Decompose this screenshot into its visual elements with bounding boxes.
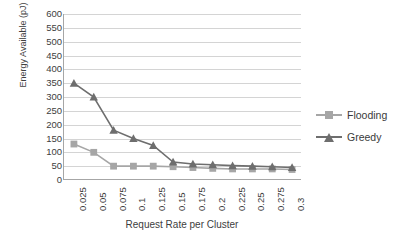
data-point-marker [71, 141, 78, 148]
series-flooding [71, 141, 296, 173]
legend-label: Greedy [347, 131, 381, 143]
legend-key-icon [316, 109, 342, 121]
x-tick-label: 0.1 [136, 198, 147, 211]
x-tick-label: 0.05 [97, 193, 108, 212]
y-tick-label: 400 [46, 65, 62, 75]
x-axis-title: Request Rate per Cluster [63, 219, 301, 230]
data-point-marker [90, 93, 98, 101]
y-tick-label: 0 [57, 175, 62, 185]
y-tick-label: 250 [46, 106, 62, 116]
x-tick-label: 0.3 [295, 198, 306, 211]
y-tick-label: 50 [51, 161, 62, 171]
x-tick-label: 0.25 [255, 193, 266, 212]
legend-item-flooding[interactable]: Flooding [316, 104, 408, 126]
chart-legend: FloodingGreedy [316, 104, 408, 148]
y-tick-label: 550 [46, 23, 62, 33]
data-point-marker [150, 163, 157, 170]
x-tick-label: 0.025 [77, 187, 88, 211]
series-line [74, 83, 292, 167]
data-point-marker [110, 163, 117, 170]
legend-key-icon [316, 131, 342, 143]
data-point-marker [130, 163, 137, 170]
data-point-marker [109, 126, 117, 134]
y-tick-label: 100 [46, 148, 62, 158]
plot-area [63, 14, 301, 180]
y-tick-label: 500 [46, 37, 62, 47]
x-tick-label: 0.15 [176, 193, 187, 212]
x-tick-label: 0.125 [156, 187, 167, 211]
data-point-marker [129, 134, 137, 142]
chart-container: Energy Available (pJ) 600550500450400350… [0, 0, 409, 241]
x-tick-label: 0.2 [216, 198, 227, 211]
series-layer [64, 14, 302, 180]
legend-item-greedy[interactable]: Greedy [316, 126, 408, 148]
x-tick-label: 0.275 [275, 187, 286, 211]
y-tick-label: 600 [46, 9, 62, 19]
y-tick-label: 350 [46, 78, 62, 88]
data-point-marker [90, 149, 97, 156]
x-tick-label: 0.175 [196, 187, 207, 211]
legend-label: Flooding [347, 109, 387, 121]
y-axis-tick-labels: 600550500450400350300250200150100500 [26, 9, 62, 181]
y-tick-label: 200 [46, 120, 62, 130]
y-tick-label: 450 [46, 51, 62, 61]
y-tick-label: 300 [46, 92, 62, 102]
x-tick-label: 0.075 [117, 187, 128, 211]
x-tick-label: 0.225 [236, 187, 247, 211]
series-greedy [70, 79, 297, 171]
y-tick-label: 150 [46, 134, 62, 144]
data-point-marker [70, 79, 78, 87]
x-axis-tick-labels: 0.0250.050.0750.10.1250.150.1750.20.2250… [63, 181, 301, 213]
